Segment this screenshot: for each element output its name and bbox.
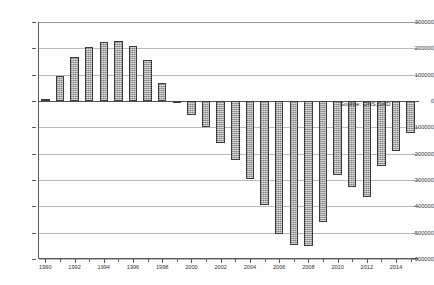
bar bbox=[56, 76, 64, 101]
y-tick-label: 0 bbox=[398, 98, 434, 104]
bar bbox=[100, 42, 108, 101]
x-tick-mark bbox=[381, 259, 382, 262]
y-tick-mark bbox=[32, 127, 36, 128]
x-tick-mark bbox=[352, 259, 353, 262]
bar bbox=[246, 101, 254, 179]
gridline bbox=[39, 22, 419, 23]
page-caption-remnant bbox=[6, 277, 426, 285]
x-tick-mark bbox=[89, 259, 90, 262]
y-tick-label: 300000 bbox=[398, 19, 434, 25]
x-tick-label: 1990 bbox=[32, 264, 58, 271]
y-tick-mark bbox=[32, 75, 36, 76]
y-tick-label: -400000 bbox=[398, 203, 434, 209]
x-tick-mark bbox=[206, 259, 207, 262]
y-tick-mark bbox=[32, 22, 36, 23]
gridline bbox=[39, 48, 419, 49]
x-tick-mark bbox=[177, 259, 178, 262]
x-tick-mark bbox=[338, 259, 339, 263]
y-tick-mark bbox=[32, 154, 36, 155]
x-tick-mark bbox=[118, 259, 119, 262]
gridline bbox=[39, 233, 419, 234]
y-tick-label: -100000 bbox=[398, 124, 434, 130]
bar bbox=[275, 101, 283, 234]
bar bbox=[85, 47, 93, 101]
x-tick-mark bbox=[75, 259, 76, 263]
x-tick-label: 1994 bbox=[91, 264, 117, 271]
bar bbox=[129, 46, 137, 101]
bar bbox=[333, 101, 341, 175]
x-tick-mark bbox=[221, 259, 222, 263]
y-tick-label: 200000 bbox=[398, 45, 434, 51]
x-tick-label: 2000 bbox=[178, 264, 204, 271]
bar bbox=[260, 101, 268, 205]
bar bbox=[319, 101, 327, 222]
y-tick-mark bbox=[32, 48, 36, 49]
x-tick-mark bbox=[308, 259, 309, 263]
bar bbox=[187, 101, 195, 115]
x-tick-label: 2006 bbox=[266, 264, 292, 271]
x-tick-mark bbox=[104, 259, 105, 263]
bar bbox=[363, 101, 371, 197]
x-tick-mark bbox=[294, 259, 295, 262]
bar bbox=[216, 101, 224, 143]
bar bbox=[114, 41, 122, 101]
y-tick-mark bbox=[32, 101, 36, 102]
y-tick-label: -300000 bbox=[398, 177, 434, 183]
x-tick-mark bbox=[191, 259, 192, 263]
x-tick-mark bbox=[367, 259, 368, 263]
source-annotation: Source: ONS,GAD bbox=[340, 101, 391, 107]
x-tick-mark bbox=[45, 259, 46, 263]
x-tick-label: 2010 bbox=[325, 264, 351, 271]
x-tick-label: 2014 bbox=[383, 264, 409, 271]
plot-area bbox=[38, 22, 418, 259]
gridline bbox=[39, 75, 419, 76]
chart-figure: 3000002000001000000-100000-200000-300000… bbox=[0, 0, 434, 285]
y-tick-mark bbox=[32, 180, 36, 181]
bar bbox=[304, 101, 312, 246]
x-tick-label: 2004 bbox=[237, 264, 263, 271]
y-tick-label: -500000 bbox=[398, 230, 434, 236]
y-tick-label: 100000 bbox=[398, 72, 434, 78]
x-tick-mark bbox=[60, 259, 61, 262]
bar bbox=[290, 101, 298, 245]
bar bbox=[231, 101, 239, 160]
bar bbox=[143, 60, 151, 101]
x-tick-label: 2002 bbox=[208, 264, 234, 271]
x-tick-mark bbox=[133, 259, 134, 263]
x-tick-mark bbox=[235, 259, 236, 262]
x-tick-mark bbox=[279, 259, 280, 263]
bar bbox=[202, 101, 210, 127]
bar bbox=[41, 99, 49, 101]
x-tick-mark bbox=[265, 259, 266, 262]
x-tick-mark bbox=[323, 259, 324, 262]
x-tick-mark bbox=[250, 259, 251, 263]
x-tick-label: 1998 bbox=[149, 264, 175, 271]
x-tick-mark bbox=[396, 259, 397, 263]
x-tick-mark bbox=[411, 259, 412, 262]
bar bbox=[348, 101, 356, 187]
x-tick-mark bbox=[148, 259, 149, 262]
x-tick-label: 2008 bbox=[295, 264, 321, 271]
x-tick-label: 2012 bbox=[354, 264, 380, 271]
x-tick-label: 1996 bbox=[120, 264, 146, 271]
bar bbox=[406, 101, 414, 133]
bar bbox=[392, 101, 400, 151]
bar bbox=[70, 57, 78, 101]
bar bbox=[173, 101, 181, 103]
y-tick-mark bbox=[32, 233, 36, 234]
y-tick-mark bbox=[32, 259, 36, 260]
x-tick-mark bbox=[162, 259, 163, 263]
bar bbox=[158, 83, 166, 101]
x-tick-label: 1992 bbox=[62, 264, 88, 271]
y-tick-label: -200000 bbox=[398, 151, 434, 157]
y-tick-mark bbox=[32, 206, 36, 207]
bar bbox=[377, 101, 385, 166]
gridline bbox=[39, 206, 419, 207]
